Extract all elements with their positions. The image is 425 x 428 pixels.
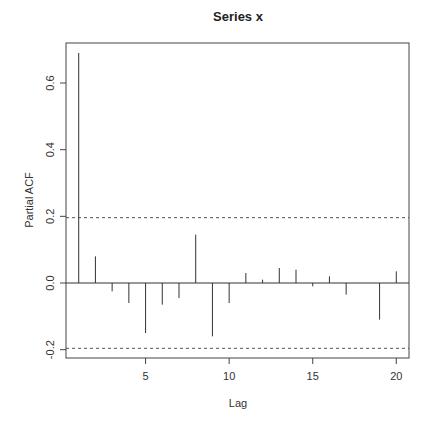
x-tick-label: 10 <box>223 370 235 382</box>
chart-title: Series x <box>213 9 264 24</box>
y-tick-label: 0.0 <box>44 275 56 290</box>
y-tick-label: 0.2 <box>44 209 56 224</box>
x-tick-label: 20 <box>390 370 402 382</box>
x-tick-label: 15 <box>307 370 319 382</box>
y-tick-label: -0.2 <box>44 340 56 359</box>
pacf-chart: Series x 5101520-0.20.00.20.40.6 Lag Par… <box>0 0 425 428</box>
y-axis-label: Partial ACF <box>23 172 35 228</box>
x-tick-label: 5 <box>143 370 149 382</box>
plot-area: 5101520-0.20.00.20.40.6 <box>44 43 409 382</box>
x-axis-label: Lag <box>229 397 247 409</box>
y-tick-label: 0.4 <box>44 142 56 157</box>
plot-frame <box>66 43 409 358</box>
y-tick-label: 0.6 <box>44 75 56 90</box>
